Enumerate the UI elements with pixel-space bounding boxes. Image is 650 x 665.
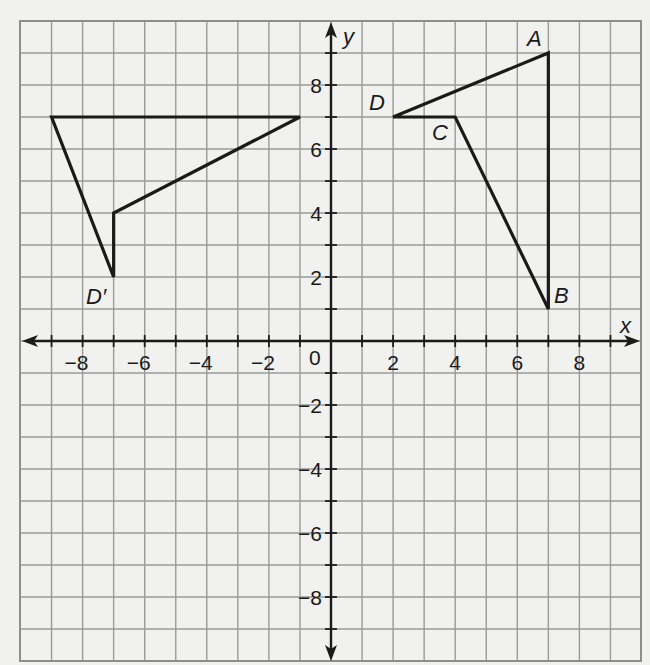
y-tick-label: −8	[298, 586, 322, 609]
origin-label: 0	[309, 346, 321, 369]
x-axis-label: x	[619, 313, 632, 338]
y-tick-label: −2	[298, 394, 322, 417]
point-label-b: B	[554, 283, 569, 308]
x-tick-label: −6	[127, 351, 151, 374]
y-tick-label: 2	[310, 266, 322, 289]
x-tick-label: −8	[65, 351, 89, 374]
x-tick-label: −4	[189, 351, 213, 374]
y-tick-label: 8	[310, 74, 322, 97]
x-tick-label: 8	[574, 351, 586, 374]
y-tick-label: 6	[310, 138, 322, 161]
y-axis-label: y	[341, 24, 356, 49]
coordinate-plane: −8−6−4−224688642−2−4−6−8 x y 0 A B C D D…	[0, 0, 650, 665]
x-tick-label: 2	[387, 351, 399, 374]
point-label-d-prime: D′	[86, 284, 107, 309]
x-tick-label: 6	[511, 351, 523, 374]
y-tick-label: 4	[310, 202, 322, 225]
y-tick-label: −4	[298, 458, 322, 481]
point-label-a: A	[525, 26, 542, 51]
point-label-d: D	[369, 90, 385, 115]
x-tick-label: −2	[251, 351, 275, 374]
x-tick-label: 4	[449, 351, 461, 374]
point-label-c: C	[432, 120, 448, 145]
y-tick-label: −6	[298, 522, 322, 545]
